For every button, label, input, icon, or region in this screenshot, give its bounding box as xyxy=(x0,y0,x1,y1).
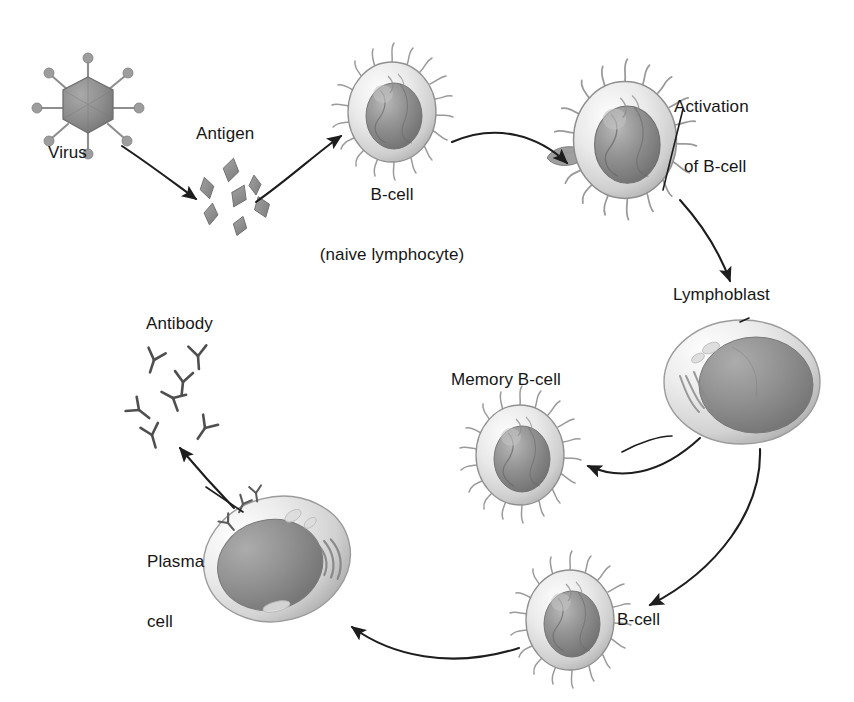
label-b-cell-daughter: B-cell xyxy=(617,610,660,630)
label-antibody: Antibody xyxy=(146,314,213,334)
leader-line-plasma-label xyxy=(206,487,243,512)
arrow-plasma-to-antibody xyxy=(180,448,234,508)
label-activation-line1: Activation xyxy=(674,97,749,117)
plasma-cell xyxy=(190,481,364,637)
memory-b-cell xyxy=(460,386,581,523)
bcell-activation-diagram: Virus Antigen B-cell (naive lymphocyte) … xyxy=(0,0,854,702)
label-b-cell-naive-line1: B-cell xyxy=(292,185,492,205)
arrow-lymphoblast-to-bcell xyxy=(650,449,760,605)
label-memory-b-cell: Memory B-cell xyxy=(451,370,561,390)
label-b-cell-naive: B-cell (naive lymphocyte) xyxy=(292,145,492,305)
label-lymphoblast: Lymphoblast xyxy=(673,285,770,305)
label-antigen: Antigen xyxy=(196,124,254,144)
label-virus: Virus xyxy=(48,143,87,163)
label-plasma-line1: Plasma xyxy=(147,552,204,572)
label-activation-line2: of B-cell xyxy=(674,157,749,177)
label-plasma-line2: cell xyxy=(147,612,204,632)
label-b-cell-naive-line2: (naive lymphocyte) xyxy=(292,245,492,265)
arrow-bcell-to-plasma xyxy=(352,627,519,659)
arrow-lymphoblast-to-memory xyxy=(588,438,700,473)
arrow-virus-to-antigen xyxy=(122,146,196,199)
b-cell-daughter xyxy=(510,551,631,688)
lymphoblast-cell xyxy=(664,320,820,444)
antibody-cluster xyxy=(126,345,218,450)
label-plasma-cell: Plasma cell xyxy=(147,512,204,672)
leader-line-lymphoblast-to-bcell xyxy=(622,436,672,452)
label-activation-of-b-cell: Activation of B-cell xyxy=(674,57,749,217)
